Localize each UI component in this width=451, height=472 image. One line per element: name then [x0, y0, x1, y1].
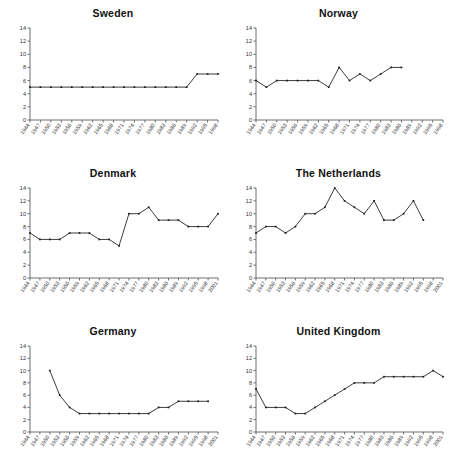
svg-text:2: 2: [249, 262, 252, 268]
svg-text:1953: 1953: [275, 280, 287, 293]
svg-text:1947: 1947: [29, 122, 41, 135]
svg-text:8: 8: [23, 64, 26, 70]
svg-text:1989: 1989: [176, 122, 188, 135]
svg-text:2001: 2001: [207, 434, 219, 447]
svg-text:1959: 1959: [294, 434, 306, 447]
svg-text:1965: 1965: [88, 280, 100, 293]
svg-text:1944: 1944: [245, 280, 257, 293]
svg-text:1962: 1962: [78, 434, 90, 447]
svg-text:1977: 1977: [134, 122, 146, 135]
panel-title-norway: Norway: [226, 7, 451, 19]
svg-text:1959: 1959: [68, 280, 80, 293]
svg-text:1995: 1995: [422, 122, 434, 135]
plot-area-germany: 0246810121419441947195019531956195919621…: [0, 340, 226, 472]
panel-title-united-kingdom: United Kingdom: [226, 325, 451, 337]
svg-text:1950: 1950: [39, 280, 51, 293]
svg-text:1974: 1974: [123, 122, 135, 135]
svg-text:14: 14: [246, 185, 252, 191]
svg-text:4: 4: [23, 404, 26, 410]
svg-text:1995: 1995: [197, 122, 209, 135]
plot-area-united-kingdom: 0246810121419441947195019531956195919621…: [226, 340, 451, 472]
svg-text:2: 2: [23, 262, 26, 268]
svg-text:1989: 1989: [167, 434, 179, 447]
svg-text:1962: 1962: [304, 434, 316, 447]
svg-text:1950: 1950: [40, 122, 52, 135]
svg-text:1971: 1971: [334, 434, 346, 447]
svg-text:2: 2: [249, 417, 252, 423]
svg-text:14: 14: [246, 25, 252, 31]
svg-text:1971: 1971: [334, 280, 346, 293]
svg-text:1956: 1956: [59, 280, 71, 293]
svg-text:1977: 1977: [128, 280, 140, 293]
svg-text:1962: 1962: [304, 280, 316, 293]
svg-text:10: 10: [246, 51, 252, 57]
svg-text:1986: 1986: [383, 280, 395, 293]
svg-text:1944: 1944: [19, 434, 31, 447]
small-multiples-grid: Sweden 024681012141944194719501953195619…: [0, 0, 451, 472]
svg-text:1968: 1968: [103, 122, 115, 135]
svg-text:14: 14: [20, 343, 26, 349]
svg-text:10: 10: [246, 368, 252, 374]
plot-area-norway: 0246810121419441947195019531956195919621…: [226, 22, 451, 160]
svg-text:1995: 1995: [187, 280, 199, 293]
svg-text:1980: 1980: [144, 122, 156, 135]
svg-text:12: 12: [246, 355, 252, 361]
svg-text:1947: 1947: [255, 280, 267, 293]
svg-text:1953: 1953: [276, 122, 288, 135]
svg-text:1971: 1971: [339, 122, 351, 135]
svg-text:2001: 2001: [432, 434, 444, 447]
svg-text:1962: 1962: [78, 280, 90, 293]
svg-text:1995: 1995: [412, 280, 424, 293]
svg-text:1986: 1986: [158, 434, 170, 447]
svg-text:1989: 1989: [401, 122, 413, 135]
svg-text:1998: 1998: [197, 434, 209, 447]
svg-text:8: 8: [23, 224, 26, 230]
svg-text:1983: 1983: [155, 122, 167, 135]
panel-title-germany: Germany: [0, 325, 226, 337]
svg-text:1962: 1962: [307, 122, 319, 135]
svg-text:1998: 1998: [422, 280, 434, 293]
svg-text:1983: 1983: [373, 280, 385, 293]
svg-text:1950: 1950: [266, 122, 278, 135]
svg-text:1983: 1983: [148, 280, 160, 293]
svg-text:1986: 1986: [390, 122, 402, 135]
svg-text:1959: 1959: [71, 122, 83, 135]
svg-text:8: 8: [249, 224, 252, 230]
svg-text:12: 12: [246, 38, 252, 44]
svg-text:1944: 1944: [19, 280, 31, 293]
chart-panel-united-kingdom: United Kingdom 0246810121419441947195019…: [226, 318, 451, 472]
svg-text:1995: 1995: [187, 434, 199, 447]
chart-panel-denmark: Denmark 02468101214194419471950195319561…: [0, 160, 226, 318]
svg-text:10: 10: [20, 211, 26, 217]
svg-text:10: 10: [20, 368, 26, 374]
chart-panel-germany: Germany 02468101214194419471950195319561…: [0, 318, 226, 472]
svg-text:6: 6: [249, 78, 252, 84]
svg-text:1953: 1953: [49, 434, 61, 447]
svg-text:1956: 1956: [59, 434, 71, 447]
svg-text:6: 6: [249, 392, 252, 398]
svg-text:2: 2: [23, 417, 26, 423]
svg-text:1971: 1971: [108, 280, 120, 293]
svg-text:1965: 1965: [314, 434, 326, 447]
svg-text:6: 6: [23, 236, 26, 242]
svg-text:1968: 1968: [324, 434, 336, 447]
svg-text:1947: 1947: [255, 434, 267, 447]
panel-title-denmark: Denmark: [0, 167, 226, 179]
svg-text:1953: 1953: [275, 434, 287, 447]
svg-text:1980: 1980: [363, 434, 375, 447]
svg-text:1977: 1977: [359, 122, 371, 135]
svg-text:1956: 1956: [61, 122, 73, 135]
svg-text:1983: 1983: [148, 434, 160, 447]
svg-text:2001: 2001: [207, 280, 219, 293]
svg-text:1953: 1953: [50, 122, 62, 135]
svg-text:1974: 1974: [118, 280, 130, 293]
svg-text:1950: 1950: [265, 434, 277, 447]
chart-panel-norway: Norway 024681012141944194719501953195619…: [226, 0, 451, 160]
svg-text:14: 14: [20, 185, 26, 191]
svg-text:1998: 1998: [422, 434, 434, 447]
svg-text:1983: 1983: [380, 122, 392, 135]
svg-text:1947: 1947: [29, 434, 41, 447]
svg-text:6: 6: [249, 236, 252, 242]
svg-text:1998: 1998: [432, 122, 444, 135]
svg-text:1989: 1989: [167, 280, 179, 293]
